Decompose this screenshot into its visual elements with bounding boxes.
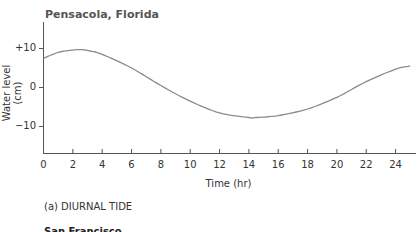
x-tick-label: 18 — [298, 159, 318, 170]
x-tick-label: 8 — [151, 159, 171, 170]
x-tick-label: 10 — [180, 159, 200, 170]
x-tick-label: 12 — [210, 159, 230, 170]
chart-caption: (a) DIURNAL TIDE — [44, 201, 132, 212]
plot-area — [0, 0, 417, 232]
x-axis-label: Time (hr) — [0, 178, 417, 189]
x-tick-label: 16 — [268, 159, 288, 170]
x-tick-label: 4 — [92, 159, 112, 170]
x-tick-label: 14 — [239, 159, 259, 170]
water-level-line — [44, 50, 411, 118]
next-panel-title: San Francisco — [44, 226, 122, 232]
x-tick-label: 24 — [386, 159, 406, 170]
x-tick-label: 0 — [34, 159, 54, 170]
x-tick-label: 2 — [63, 159, 83, 170]
x-tick-label: 20 — [327, 159, 347, 170]
x-tick-label: 6 — [122, 159, 142, 170]
x-tick-label: 22 — [356, 159, 376, 170]
